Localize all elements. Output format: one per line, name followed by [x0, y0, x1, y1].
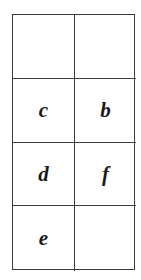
cell-r3-c2: f [75, 143, 136, 206]
letter-grid: c b d f e [12, 14, 135, 270]
cell-r2-c1: c [13, 79, 75, 143]
cell-r4-c2 [75, 206, 136, 271]
cell-r3-c1: d [13, 143, 75, 206]
cell-r4-c1: e [13, 206, 75, 271]
cell-r2-c2: b [75, 79, 136, 143]
cell-r1-c1 [13, 15, 75, 79]
cell-r1-c2 [75, 15, 136, 79]
